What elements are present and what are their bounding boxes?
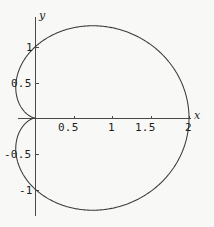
y-tick-label-minus0point5: -0.5 (4, 149, 31, 160)
y-tick-label-1: 1 (26, 42, 33, 53)
x-axis-label: x (194, 110, 200, 121)
x-tick-label-1: 1 (108, 122, 115, 133)
x-tick-label-2: 2 (185, 122, 192, 133)
x-tick-label-0point5: 0.5 (58, 122, 78, 133)
y-tick-label-minus1: -1 (19, 185, 33, 196)
y-tick-label-0point5: 0.5 (11, 78, 31, 89)
x-tick-label-1point5: 1.5 (135, 122, 155, 133)
y-axis-label: y (39, 10, 45, 21)
cardioid-plot-figure: 0.5 1 1.5 2 1 0.5 -0.5 -1 x y (0, 0, 214, 227)
